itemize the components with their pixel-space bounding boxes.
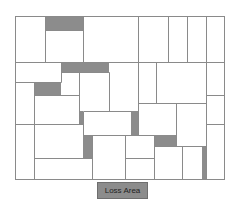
cut-lines [16,17,225,180]
loss-area [131,111,138,135]
legend-label: Loss Area [105,186,141,195]
loss-areas [34,16,206,179]
packing-diagram [0,0,236,209]
loss-area [61,62,109,72]
loss-area [34,82,61,95]
loss-area [83,135,92,158]
diagram-frame [16,17,225,180]
loss-area [154,135,176,146]
legend-loss-area: Loss Area [97,182,148,199]
loss-area [202,146,206,179]
loss-area [45,16,83,30]
